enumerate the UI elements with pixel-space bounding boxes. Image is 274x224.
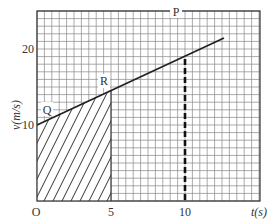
x-axis-label: t(s) xyxy=(251,205,267,219)
y-axis-label: v(m/s) xyxy=(9,100,23,130)
y-tick-20: 20 xyxy=(22,42,34,56)
velocity-time-graph: P R Q 20 10 O 5 10 t(s) v(m/s) xyxy=(0,0,274,224)
velocity-line xyxy=(37,38,224,125)
point-p-label: P xyxy=(173,5,180,19)
origin-label: O xyxy=(32,205,41,219)
y-tick-10: 10 xyxy=(22,118,34,132)
x-tick-10: 10 xyxy=(179,205,191,219)
point-q-label: Q xyxy=(43,103,52,117)
x-tick-5: 5 xyxy=(108,205,114,219)
point-r-label: R xyxy=(100,74,108,88)
